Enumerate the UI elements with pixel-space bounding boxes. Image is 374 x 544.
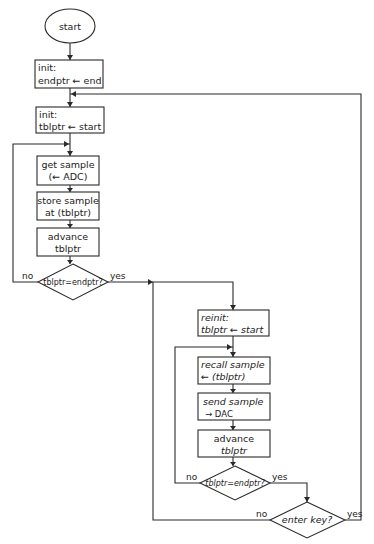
node-get-sample-line1: get sample	[41, 159, 94, 170]
node-get-sample: get sample (← ADC)	[37, 156, 99, 185]
node-store-sample-line2: at (tblptr)	[45, 207, 91, 218]
node-advance-2: advance tblptr	[198, 430, 270, 457]
node-reinit-line2: tblptr ← start	[201, 324, 264, 335]
node-decision-1-label: tblptr=endptr?	[43, 278, 102, 287]
node-init-endptr-line2: endptr ← end	[38, 75, 101, 86]
node-decision-2: tblptr=endptr?	[200, 466, 270, 500]
node-init-tblptr: init: tblptr ← start	[36, 107, 104, 133]
node-decision-1: tblptr=endptr?	[38, 264, 108, 300]
node-recall-sample: recall sample ← (tblptr)	[198, 357, 270, 384]
node-reinit-line1: reinit:	[201, 312, 229, 323]
node-start-label: start	[59, 21, 81, 32]
node-advance-1-line2: tblptr	[55, 243, 81, 254]
node-init-tblptr-line2: tblptr ← start	[39, 121, 101, 132]
edge-label-d1-yes: yes	[110, 271, 126, 281]
edge-label-d2-yes: yes	[272, 472, 288, 482]
node-reinit: reinit: tblptr ← start	[198, 310, 269, 336]
node-decision-3: enter key?	[270, 502, 345, 538]
node-advance-1-line1: advance	[48, 231, 89, 242]
node-decision-2-label: tblptr=endptr?	[205, 479, 265, 488]
node-init-endptr: init: endptr ← end	[35, 60, 103, 88]
node-send-sample-line1: send sample	[203, 396, 264, 407]
node-init-endptr-line1: init:	[38, 62, 56, 73]
node-decision-3-label: enter key?	[282, 514, 332, 525]
node-recall-sample-line2: ← (tblptr)	[201, 371, 245, 382]
edge-label-d3-yes: yes	[347, 509, 363, 519]
node-get-sample-line2: (← ADC)	[49, 171, 88, 182]
node-recall-sample-line1: recall sample	[201, 359, 265, 370]
node-store-sample-line1: store sample	[37, 195, 99, 206]
edge-label-d2-no: no	[186, 472, 198, 482]
node-send-sample: send sample → DAC	[198, 393, 270, 420]
node-advance-1: advance tblptr	[37, 228, 99, 256]
node-advance-2-line1: advance	[214, 433, 255, 444]
node-init-tblptr-line1: init:	[39, 109, 57, 120]
edge-label-d3-no: no	[256, 509, 268, 519]
node-send-sample-line2: → DAC	[205, 409, 233, 419]
node-start: start	[45, 9, 95, 43]
node-advance-2-line2: tblptr	[221, 445, 248, 456]
edge-label-d1-no: no	[22, 271, 34, 281]
node-store-sample: store sample at (tblptr)	[37, 192, 99, 220]
flowchart: start init: endptr ← end init: tblptr ← …	[0, 0, 374, 544]
